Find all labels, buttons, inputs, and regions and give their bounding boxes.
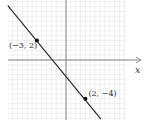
data-point-label: (−3, 2) [9, 41, 37, 50]
axes [8, 0, 141, 120]
x-axis-label: x [135, 65, 140, 75]
data-point-label: (2, −4) [88, 89, 116, 98]
chart: (−3, 2)(2, −4) x [0, 0, 147, 131]
series [8, 6, 101, 119]
data-point [83, 97, 87, 101]
line-series [8, 6, 101, 119]
